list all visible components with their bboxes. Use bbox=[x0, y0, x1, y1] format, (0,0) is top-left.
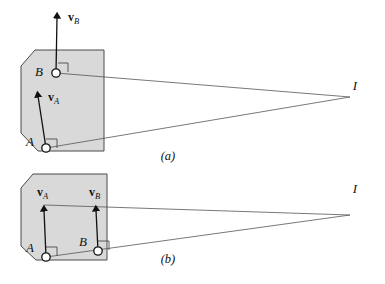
point-label-a-A: A bbox=[25, 134, 34, 149]
panel-caption-b: (b) bbox=[161, 252, 176, 266]
vector-subscript-a-vA: A bbox=[53, 96, 60, 106]
point-label-a-B: B bbox=[35, 64, 43, 79]
point-marker-b-B bbox=[94, 247, 102, 255]
point-marker-b-A bbox=[42, 253, 50, 261]
panel-caption-a: (a) bbox=[161, 149, 176, 163]
vector-subscript-b-vB: B bbox=[95, 191, 100, 201]
panel-b: A B vA vB I (b) bbox=[21, 174, 358, 266]
instant-center-label-a: I bbox=[352, 78, 358, 93]
vector-subscript-a-vB: B bbox=[74, 16, 79, 26]
point-marker-a-B bbox=[52, 69, 60, 77]
diagram-canvas: A B vA vB I (a) bbox=[0, 0, 385, 284]
point-label-b-A: A bbox=[25, 240, 34, 255]
figure-container: A B vA vB I (a) bbox=[0, 0, 385, 284]
vector-subscript-b-vA: A bbox=[42, 191, 49, 201]
point-marker-a-A bbox=[42, 144, 50, 152]
instant-center-label-b: I bbox=[352, 181, 358, 196]
point-label-b-B: B bbox=[79, 234, 87, 249]
vector-label-a-vB: vB bbox=[68, 10, 79, 26]
panel-a: A B vA vB I (a) bbox=[21, 10, 358, 163]
